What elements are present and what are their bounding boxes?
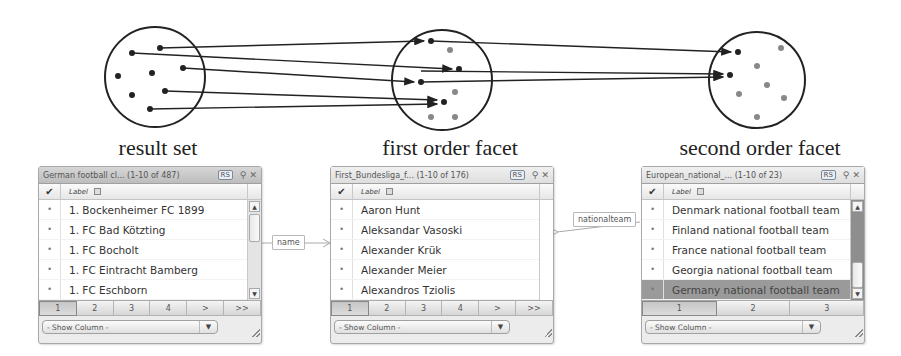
page-button[interactable]: 2 bbox=[717, 301, 791, 316]
check-all-icon[interactable]: ✔ bbox=[331, 184, 353, 199]
list-item[interactable]: •1. FC Bad Kötzting bbox=[39, 220, 247, 240]
resize-grip-icon[interactable] bbox=[855, 329, 863, 337]
page-button[interactable]: 3 bbox=[790, 301, 864, 316]
bullet-icon: • bbox=[331, 200, 353, 219]
edge-label-nationalteam[interactable]: nationalteam bbox=[573, 212, 636, 227]
column-header: ✔ Label bbox=[331, 184, 553, 200]
scroll-up-icon[interactable]: ▲ bbox=[852, 201, 863, 212]
pin-icon[interactable]: ⚲ bbox=[240, 170, 247, 180]
bullet-icon: • bbox=[642, 280, 664, 299]
page-button[interactable]: 4 bbox=[150, 301, 187, 316]
column-header: ✔ Label bbox=[642, 184, 864, 200]
page-button[interactable]: 2 bbox=[369, 301, 406, 316]
facet-panel-second-order: European_national_... (1-10 of 23) RS ⚲ … bbox=[641, 166, 865, 344]
column-label[interactable]: Label bbox=[69, 188, 88, 196]
column-label[interactable]: Label bbox=[672, 188, 691, 196]
bullet-icon: • bbox=[331, 280, 353, 299]
close-icon[interactable]: ✕ bbox=[852, 170, 860, 180]
sort-icon[interactable] bbox=[697, 188, 704, 195]
check-all-icon[interactable]: ✔ bbox=[39, 184, 61, 199]
list-item[interactable]: •1. FC Eschborn bbox=[39, 280, 247, 300]
pin-icon[interactable]: ⚲ bbox=[843, 170, 850, 180]
scroll-down-icon[interactable]: ▼ bbox=[249, 288, 260, 299]
list-item-selected[interactable]: •Germany national football team bbox=[642, 280, 850, 300]
bullet-icon: • bbox=[331, 240, 353, 259]
facet-panel-result-set: German football cl... (1-10 of 487) RS ⚲… bbox=[38, 166, 262, 344]
facet-panel-first-order: First_Bundesliga_f... (1-10 of 176) RS ⚲… bbox=[330, 166, 554, 344]
list-item[interactable]: •1. FC Eintracht Bamberg bbox=[39, 260, 247, 280]
bullet-icon: • bbox=[39, 240, 61, 259]
resize-grip-icon[interactable] bbox=[252, 329, 260, 337]
list-item[interactable]: •Denmark national football team bbox=[642, 200, 850, 220]
pagination: 1 2 3 4 > >> bbox=[331, 300, 553, 316]
rs-badge-button[interactable]: RS bbox=[510, 170, 525, 180]
panel-header[interactable]: First_Bundesliga_f... (1-10 of 176) RS ⚲… bbox=[331, 167, 553, 184]
vertical-scrollbar[interactable] bbox=[539, 200, 553, 300]
show-column-select[interactable]: - Show Column - ▼ bbox=[42, 320, 218, 334]
page-button[interactable]: 4 bbox=[442, 301, 479, 316]
bullet-icon: • bbox=[39, 260, 61, 279]
page-button[interactable]: 3 bbox=[406, 301, 443, 316]
bullet-icon: • bbox=[39, 280, 61, 299]
bullet-icon: • bbox=[642, 260, 664, 279]
dropdown-arrow-icon[interactable]: ▼ bbox=[199, 321, 217, 333]
scroll-up-icon[interactable]: ▲ bbox=[249, 201, 260, 212]
last-page-button[interactable]: >> bbox=[516, 301, 553, 316]
panel-header[interactable]: German football cl... (1-10 of 487) RS ⚲… bbox=[39, 167, 261, 184]
caption-first-order-facet: first order facet bbox=[355, 135, 545, 161]
mapping-arrows bbox=[132, 41, 731, 109]
bullet-icon: • bbox=[331, 260, 353, 279]
list-item[interactable]: •Aaron Hunt bbox=[331, 200, 539, 220]
close-icon[interactable]: ✕ bbox=[249, 170, 257, 180]
page-button[interactable]: 2 bbox=[77, 301, 114, 316]
result-list: •1. Bockenheimer FC 1899 •1. FC Bad Kötz… bbox=[39, 200, 247, 300]
scroll-thumb[interactable] bbox=[852, 262, 863, 288]
list-item[interactable]: •Georgia national football team bbox=[642, 260, 850, 280]
sort-icon[interactable] bbox=[386, 188, 393, 195]
panel-header[interactable]: European_national_... (1-10 of 23) RS ⚲ … bbox=[642, 167, 864, 184]
page-button[interactable]: 3 bbox=[114, 301, 151, 316]
show-column-select[interactable]: - Show Column - ▼ bbox=[645, 320, 821, 334]
panel-title: European_national_... (1-10 of 23) bbox=[646, 171, 821, 180]
check-all-icon[interactable]: ✔ bbox=[642, 184, 664, 199]
sort-icon[interactable] bbox=[94, 188, 101, 195]
list-item[interactable]: •Finland national football team bbox=[642, 220, 850, 240]
vertical-scrollbar[interactable]: ▲ ▼ bbox=[850, 200, 864, 300]
show-column-select[interactable]: - Show Column - ▼ bbox=[334, 320, 510, 334]
scroll-down-icon[interactable]: ▼ bbox=[852, 288, 863, 299]
bullet-icon: • bbox=[642, 200, 664, 219]
rs-badge-button[interactable]: RS bbox=[218, 170, 233, 180]
panel-title: German football cl... (1-10 of 487) bbox=[43, 171, 218, 180]
list-item[interactable]: •1. Bockenheimer FC 1899 bbox=[39, 200, 247, 220]
page-button[interactable]: 1 bbox=[39, 301, 77, 316]
list-item[interactable]: •1. FC Bocholt bbox=[39, 240, 247, 260]
resize-grip-icon[interactable] bbox=[544, 329, 552, 337]
pin-icon[interactable]: ⚲ bbox=[532, 170, 539, 180]
vertical-scrollbar[interactable]: ▲ ▼ bbox=[247, 200, 261, 300]
column-label[interactable]: Label bbox=[361, 188, 380, 196]
panel-title: First_Bundesliga_f... (1-10 of 176) bbox=[335, 171, 510, 180]
facet-list: •Denmark national football team •Finland… bbox=[642, 200, 850, 300]
pagination: 1 2 3 bbox=[642, 300, 864, 316]
scroll-thumb[interactable] bbox=[249, 214, 260, 242]
list-item[interactable]: •Alexandros Tziolis bbox=[331, 280, 539, 300]
caption-second-order-facet: second order facet bbox=[660, 135, 860, 161]
first-order-facet-circle bbox=[392, 30, 492, 130]
close-icon[interactable]: ✕ bbox=[541, 170, 549, 180]
list-item[interactable]: •France national football team bbox=[642, 240, 850, 260]
list-item[interactable]: •Alexander Meier bbox=[331, 260, 539, 280]
page-button[interactable]: 1 bbox=[642, 301, 717, 316]
page-button[interactable]: 1 bbox=[331, 301, 369, 316]
dropdown-arrow-icon[interactable]: ▼ bbox=[491, 321, 509, 333]
bullet-icon: • bbox=[642, 220, 664, 239]
list-item[interactable]: •Alexander Krük bbox=[331, 240, 539, 260]
edge-label-name[interactable]: name bbox=[272, 235, 305, 250]
dropdown-arrow-icon[interactable]: ▼ bbox=[802, 321, 820, 333]
column-header: ✔ Label bbox=[39, 184, 261, 200]
bullet-icon: • bbox=[331, 220, 353, 239]
next-page-button[interactable]: > bbox=[479, 301, 516, 316]
list-item[interactable]: •Aleksandar Vasoski bbox=[331, 220, 539, 240]
last-page-button[interactable]: >> bbox=[224, 301, 261, 316]
rs-badge-button[interactable]: RS bbox=[821, 170, 836, 180]
next-page-button[interactable]: > bbox=[187, 301, 224, 316]
